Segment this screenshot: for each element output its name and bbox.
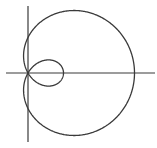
limacon-diagram <box>0 0 157 148</box>
